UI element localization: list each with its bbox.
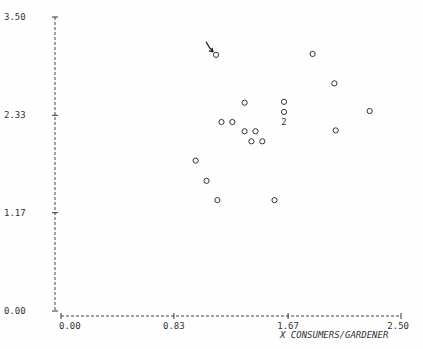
x-tick-label: 2.50 xyxy=(387,321,409,331)
data-point xyxy=(242,129,247,134)
data-point xyxy=(333,128,338,133)
y-tick-label: 1.17 xyxy=(4,208,26,218)
data-point xyxy=(242,100,247,105)
data-point-multiple: 2 xyxy=(281,117,286,127)
data-point xyxy=(193,158,198,163)
annotations xyxy=(206,42,213,52)
data-point xyxy=(281,99,286,104)
data-point xyxy=(310,51,315,56)
data-point xyxy=(249,139,254,144)
data-point xyxy=(272,198,277,203)
data-point xyxy=(332,81,337,86)
x-tick-label: 0.83 xyxy=(163,321,185,331)
y-ticks: 0.001.172.333.50 xyxy=(4,12,58,316)
data-point xyxy=(219,119,224,124)
data-point xyxy=(281,109,286,114)
data-points: 2 xyxy=(193,51,372,202)
data-point xyxy=(213,52,218,57)
y-tick-label: 3.50 xyxy=(4,12,26,22)
data-point xyxy=(253,129,258,134)
y-tick-label: 2.33 xyxy=(4,110,26,120)
data-point xyxy=(215,198,220,203)
x-tick-label: 0.00 xyxy=(59,321,81,331)
data-point xyxy=(260,139,265,144)
scatter-chart: 0.001.172.333.50 0.000.831.672.50 X CONS… xyxy=(0,0,423,349)
data-point xyxy=(204,178,209,183)
y-tick-label: 0.00 xyxy=(4,306,26,316)
x-axis-title: X CONSUMERS/GARDENER xyxy=(279,330,389,340)
data-point xyxy=(230,119,235,124)
data-point xyxy=(367,108,372,113)
